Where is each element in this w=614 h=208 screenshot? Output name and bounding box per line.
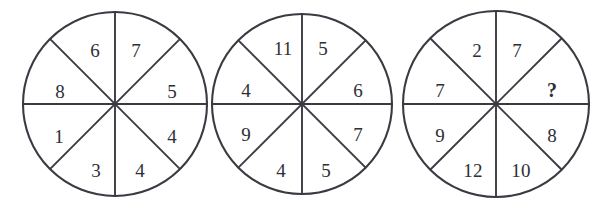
wheel-3-sector-bottom-left-label: 12: [463, 161, 482, 180]
puzzle-figure: 6754431811567549427?8101297: [0, 0, 614, 208]
wheel-3-sector-top-right-label: 7: [512, 41, 522, 60]
wheel-3-sector-top-left-label: 2: [472, 41, 482, 60]
wheel-3-sector-bottom-right-label: 10: [511, 161, 530, 180]
wheel-3-sector-right-lower-label: 8: [547, 126, 557, 145]
wheel-3-sector-left-lower-label: 9: [435, 126, 445, 145]
wheel-3-sector-left-upper-label: 7: [435, 81, 445, 100]
wheel-3-sector-right-upper-label: ?: [547, 80, 557, 100]
